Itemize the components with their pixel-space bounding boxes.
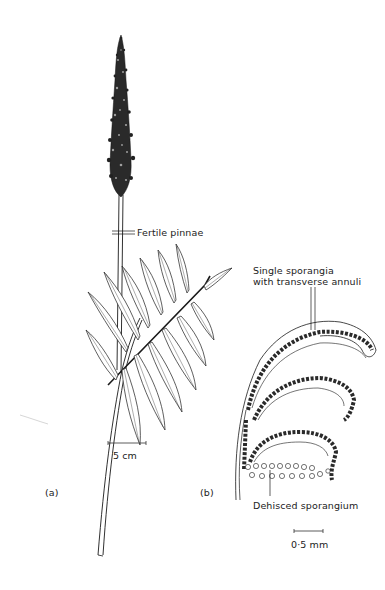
scale-bar-b [294,529,323,533]
panel-label-b: (b) [200,487,214,498]
stray-mark [20,415,48,424]
sporangia-illustration [236,321,376,500]
sporangia-label-line2: with transverse annuli [253,276,361,287]
sterile-pinnae [86,244,232,445]
sporangia-label-line1: Single sporangia [253,265,334,276]
panel-label-a: (a) [45,487,59,498]
scale-label-a: 5 cm [113,450,137,461]
fertile-pinnae-label: Fertile pinnae [137,227,203,238]
scale-label-b: 0·5 mm [291,539,328,550]
annuli-leader [311,287,315,330]
fertile-spike [107,35,135,197]
fertile-pinnae-leader [112,231,135,234]
dehisced-sporangium-label: Dehisced sporangium [253,500,358,511]
